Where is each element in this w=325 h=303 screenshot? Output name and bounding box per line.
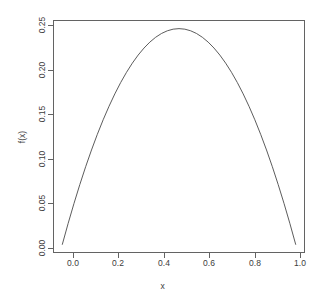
x-tick-label-1: 0.2 <box>112 258 124 269</box>
function-curve <box>62 29 295 245</box>
plot-canvas: 0.0 0.2 0.4 0.6 0.8 1.0 0.00 0.05 0.10 0… <box>0 0 325 303</box>
y-tick-label-2: 0.10 <box>37 147 48 171</box>
y-tick-label-3: 0.15 <box>37 102 48 126</box>
y-tick-1 <box>48 203 53 204</box>
y-tick-5 <box>48 25 53 26</box>
x-tick-label-4: 0.8 <box>249 258 261 269</box>
x-tick-label-2: 0.4 <box>158 258 170 269</box>
curve-svg <box>53 20 305 253</box>
x-tick-label-0: 0.0 <box>67 258 79 269</box>
y-tick-label-0: 0.00 <box>37 236 48 260</box>
y-axis-label: f(x) <box>17 125 27 149</box>
y-tick-2 <box>48 159 53 160</box>
x-tick-label-3: 0.6 <box>203 258 215 269</box>
y-tick-label-1: 0.05 <box>37 191 48 215</box>
y-tick-label-5: 0.25 <box>37 13 48 37</box>
y-tick-label-4: 0.20 <box>37 58 48 82</box>
y-tick-3 <box>48 114 53 115</box>
y-tick-0 <box>48 248 53 249</box>
x-axis-label: x <box>0 281 325 291</box>
y-tick-4 <box>48 70 53 71</box>
x-tick-label-5: 1.0 <box>294 258 306 269</box>
